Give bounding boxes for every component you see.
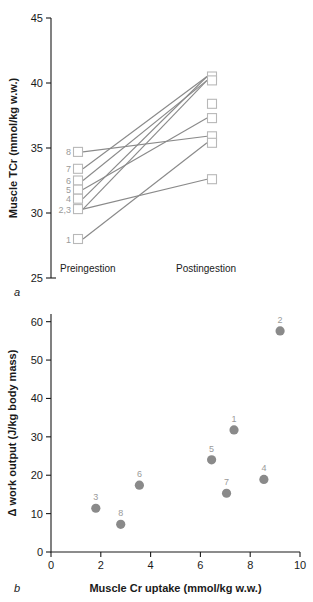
panel-b-point-label: 4	[261, 463, 266, 473]
panel-b-point-label: 5	[209, 444, 214, 454]
panel-a-point-label: 2,3	[58, 205, 71, 215]
panel-a-pre-marker	[74, 176, 83, 185]
panel-b-point-label: 7	[224, 477, 229, 487]
panel-a-pre-marker	[74, 185, 83, 194]
panel-b-chart: 0102030405060024681012345678Δ work outpu…	[0, 300, 313, 602]
panel-b-x-tick-label: 4	[148, 559, 154, 571]
panel-b-point-label: 6	[137, 469, 142, 479]
panel-a-y-axis-title: Muscle TCr (mmol/kg w.w.)	[7, 77, 19, 218]
panel-b-x-tick-label: 0	[48, 559, 54, 571]
panel-a-post-marker	[208, 99, 217, 108]
panel-a-pre-marker	[74, 205, 83, 214]
panel-a-y-tick-label: 40	[31, 77, 43, 89]
panel-a-connector-line	[83, 80, 207, 209]
panel-a-y-tick-label: 25	[31, 272, 43, 284]
panel-b-x-tick-label: 2	[98, 559, 104, 571]
panel-a-label: a	[14, 286, 20, 298]
panel-b-point-label: 2	[278, 315, 283, 325]
panel-a-y-tick-label: 35	[31, 142, 43, 154]
panel-a-connector-line	[83, 143, 207, 239]
panel-a-y-tick-label: 30	[31, 207, 43, 219]
panel-a-connector-line	[83, 77, 207, 169]
panel-a-pre-marker	[74, 164, 83, 173]
panel-a-connector-line	[83, 136, 207, 152]
panel-a-point-label: 7	[66, 164, 71, 174]
panel-a-post-marker	[208, 76, 217, 85]
panel-b-data-point	[207, 455, 216, 464]
panel-b-y-tick-label: 0	[37, 546, 43, 558]
panel-a-connector-line	[83, 80, 207, 180]
panel-b-y-tick-label: 60	[31, 316, 43, 328]
panel-a-pre-marker	[74, 147, 83, 156]
panel-a-connector-line	[83, 118, 207, 190]
panel-b-data-point	[116, 520, 125, 529]
figure-container: 2530354045876542,31PreingestionPostinges…	[0, 0, 313, 602]
panel-a-category-postingestion: Postingestion	[176, 263, 236, 274]
panel-a-point-label: 4	[66, 194, 71, 204]
panel-b-point-label: 3	[93, 492, 98, 502]
panel-a-post-marker	[208, 175, 217, 184]
panel-b-x-tick-label: 8	[247, 559, 253, 571]
panel-b-data-point	[135, 481, 144, 490]
panel-a-post-marker	[208, 138, 217, 147]
panel-b-y-tick-label: 50	[31, 354, 43, 366]
panel-b-data-point	[259, 475, 268, 484]
panel-b-data-point	[91, 504, 100, 513]
panel-b-x-axis-title: Muscle Cr uptake (mmol/kg w.w.)	[89, 582, 261, 594]
panel-a-connector-line	[83, 179, 207, 209]
panel-a-pre-marker	[74, 235, 83, 244]
panel-b-point-label: 1	[232, 414, 237, 424]
panel-b-data-point	[222, 489, 231, 498]
panel-a-post-marker	[208, 114, 217, 123]
panel-b-label: b	[14, 582, 20, 594]
panel-a-y-tick-label: 45	[31, 12, 43, 24]
panel-b-y-axis-title: Δ work output (J/kg body mass)	[6, 349, 18, 516]
panel-b-x-tick-label: 10	[294, 559, 306, 571]
panel-a-chart: 2530354045876542,31PreingestionPostinges…	[0, 0, 313, 300]
panel-b-y-tick-label: 20	[31, 469, 43, 481]
panel-b-y-tick-label: 30	[31, 431, 43, 443]
panel-b-y-tick-label: 10	[31, 508, 43, 520]
panel-b-point-label: 8	[118, 508, 123, 518]
panel-a-pre-marker	[74, 194, 83, 203]
panel-b-data-point	[229, 425, 238, 434]
panel-b-axes	[51, 314, 300, 552]
panel-b-data-point	[275, 326, 284, 335]
panel-a-category-preingestion: Preingestion	[60, 263, 116, 274]
panel-a-point-label: 8	[66, 147, 71, 157]
panel-b-x-tick-label: 6	[197, 559, 203, 571]
panel-a-point-label: 1	[66, 235, 71, 245]
panel-b-y-tick-label: 40	[31, 392, 43, 404]
